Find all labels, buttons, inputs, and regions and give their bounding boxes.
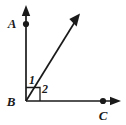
point-label-a: A [7,16,17,31]
ray-bd-arrowhead [69,14,80,27]
geometry-figure: A B C 1 2 [0,0,126,125]
ray-ba-arrowhead [22,5,30,16]
point-c-dot [100,98,106,104]
point-label-c: C [99,108,108,123]
ray-bd-line [26,23,75,102]
point-label-b: B [6,94,16,109]
geometry-canvas: A B C 1 2 [0,0,126,125]
angle-label-2: 2 [41,82,48,96]
point-a-dot [23,21,29,27]
ray-bc-arrowhead [110,97,121,105]
angle-label-1: 1 [29,73,35,87]
